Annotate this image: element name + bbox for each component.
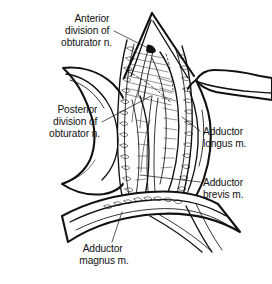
label-adductor-magnus: Adductor magnus m. (79, 243, 129, 266)
label-adductor-longus-line-1: Adductor (203, 126, 244, 137)
label-adductor-brevis-line-1: Adductor (203, 177, 244, 188)
label-adductor-brevis-line-2: brevis m. (203, 189, 243, 200)
label-anterior-division-line-3: obturator n. (61, 37, 112, 48)
label-adductor-magnus-line-1: Adductor (83, 243, 124, 254)
label-adductor-magnus-line-2: magnus m. (79, 255, 129, 266)
label-posterior-division-line-2: division of (53, 116, 97, 127)
label-adductor-longus-line-2: longus m. (203, 138, 246, 149)
anatomical-figure: Anterior division of obturator n. Poster… (0, 0, 272, 284)
label-anterior-division-line-1: Anterior (74, 13, 110, 24)
label-adductor-longus: Adductor longus m. (203, 126, 246, 149)
label-anterior-division-line-2: division of (65, 25, 109, 36)
anatomy-illustration-canvas: Anterior division of obturator n. Poster… (0, 0, 272, 284)
label-posterior-division-line-1: Posterior (57, 104, 98, 115)
label-posterior-division-line-3: obturator n. (49, 128, 100, 139)
label-posterior-division: Posterior division of obturator n. (49, 104, 100, 139)
label-adductor-brevis: Adductor brevis m. (203, 177, 246, 200)
